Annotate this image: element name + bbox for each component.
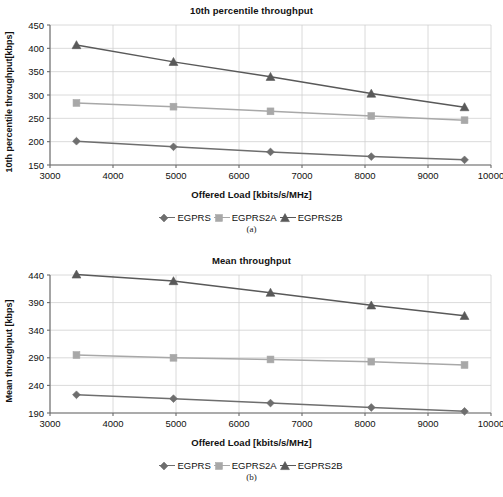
svg-text:340: 340 [28,325,44,336]
y-axis-label-a: 10th percentile throughput[kbps] [0,17,16,187]
legend-line-egprs2a-b [214,465,230,466]
plot-area-a: 10th percentile throughput[kbps] 1502002… [0,17,503,187]
diamond-icon [159,213,170,224]
y-axis-label-b: Mean throughput [kbps] [0,267,16,435]
legend-label-egprs-b: EGPRS [176,460,211,471]
legend-line-egprs2a-a [214,217,230,218]
y-axis-label-text-b: Mean throughput [kbps] [3,300,13,403]
svg-text:8000: 8000 [354,418,375,429]
svg-text:5000: 5000 [165,170,186,181]
legend-item-egprs2a-a: EGPRS2A [214,212,278,223]
svg-text:390: 390 [28,297,44,308]
legend-line-egprs2b-a [280,217,296,218]
svg-text:9000: 9000 [417,418,438,429]
svg-text:400: 400 [28,43,44,54]
figure-b: Mean throughput Mean throughput [kbps] 1… [0,250,503,497]
svg-text:300: 300 [28,90,44,101]
svg-text:9000: 9000 [417,170,438,181]
figure-a: 10th percentile throughput 10th percenti… [0,0,503,250]
svg-text:250: 250 [28,113,44,124]
legend-line-egprs-b [159,465,175,466]
line-chart-b: 1902402903403904403000400050006000700080… [16,267,503,435]
legend-label-egprs2a-a: EGPRS2A [231,212,278,223]
legend-item-egprs2b-a: EGPRS2B [280,212,344,223]
svg-text:3000: 3000 [39,418,60,429]
svg-text:7000: 7000 [291,418,312,429]
svg-text:10000: 10000 [478,418,503,429]
svg-text:150: 150 [28,160,44,171]
figure-page: 10th percentile throughput 10th percenti… [0,0,503,497]
subfigure-caption-a: (a) [0,224,503,234]
svg-text:6000: 6000 [228,418,249,429]
chart-title-b: Mean throughput [0,250,503,267]
svg-text:4000: 4000 [102,418,123,429]
diamond-icon [159,461,170,472]
legend-label-egprs2b-b: EGPRS2B [297,460,344,471]
legend-label-egprs2b-a: EGPRS2B [297,212,344,223]
legend-label-egprs2a-b: EGPRS2A [231,460,278,471]
plot-svg-holder-a: 1502002503003504004503000400050006000700… [16,17,503,191]
legend-item-egprs-b: EGPRS [159,460,211,471]
square-icon [213,213,224,224]
triangle-icon [279,461,290,472]
svg-text:350: 350 [28,66,44,77]
svg-text:240: 240 [28,380,44,391]
svg-text:440: 440 [28,270,44,281]
svg-text:200: 200 [28,136,44,147]
svg-text:7000: 7000 [291,170,312,181]
legend-item-egprs-a: EGPRS [159,212,211,223]
legend-line-egprs2b-b [280,465,296,466]
triangle-icon [279,213,290,224]
legend-line-egprs-a [159,217,175,218]
svg-text:290: 290 [28,352,44,363]
plot-area-b: Mean throughput [kbps] 19024029034039044… [0,267,503,435]
svg-text:10000: 10000 [478,170,503,181]
line-chart-a: 1502002503003504004503000400050006000700… [16,17,503,187]
svg-text:8000: 8000 [354,170,375,181]
chart-title-a: 10th percentile throughput [0,0,503,17]
legend-a: EGPRS EGPRS2A EGPRS2B [0,212,503,223]
svg-text:6000: 6000 [228,170,249,181]
subfigure-caption-b: (b) [0,472,503,482]
svg-text:190: 190 [28,408,44,419]
plot-svg-holder-b: 1902402903403904403000400050006000700080… [16,267,503,439]
legend-label-egprs-a: EGPRS [176,212,211,223]
legend-b: EGPRS EGPRS2A EGPRS2B [0,460,503,471]
svg-text:4000: 4000 [102,170,123,181]
legend-item-egprs2a-b: EGPRS2A [214,460,278,471]
svg-text:5000: 5000 [165,418,186,429]
svg-text:3000: 3000 [39,170,60,181]
legend-item-egprs2b-b: EGPRS2B [280,460,344,471]
y-axis-label-text-a: 10th percentile throughput[kbps] [3,31,13,172]
square-icon [213,461,224,472]
svg-text:450: 450 [28,20,44,31]
